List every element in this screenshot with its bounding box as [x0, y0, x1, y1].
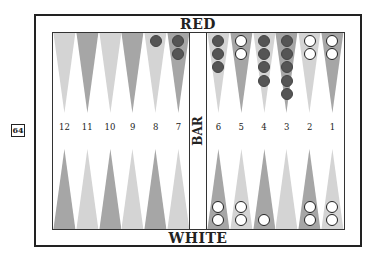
- point-number-label: 7: [167, 122, 190, 132]
- point-7-bottom[interactable]: [167, 149, 190, 229]
- red-checker[interactable]: [281, 88, 293, 100]
- point-10-bottom[interactable]: [99, 149, 122, 229]
- red-checker[interactable]: [281, 35, 293, 47]
- point-number-label: 11: [76, 122, 99, 132]
- point-column: 6: [207, 33, 230, 229]
- bar-label: BAR: [191, 116, 205, 145]
- white-checker[interactable]: [304, 214, 316, 226]
- point-number-label: 5: [230, 122, 253, 132]
- point-number-label: 1: [321, 122, 344, 132]
- point-column: 5: [230, 33, 253, 229]
- point-number-label: 12: [53, 122, 76, 132]
- point-9-top[interactable]: [121, 33, 144, 113]
- point-number-label: 6: [207, 122, 230, 132]
- point-8-bottom[interactable]: [144, 149, 167, 229]
- point-column: 1: [321, 33, 344, 229]
- point-9-bottom[interactable]: [121, 149, 144, 229]
- red-checker[interactable]: [150, 35, 162, 47]
- point-10-top[interactable]: [99, 33, 122, 113]
- bottom-player-label: WHITE: [36, 230, 360, 246]
- point-column: 12: [53, 33, 76, 229]
- doubling-cube[interactable]: 64: [11, 124, 25, 137]
- white-checker[interactable]: [258, 214, 270, 226]
- point-number-label: 4: [253, 122, 276, 132]
- backgammon-board: 121110987 BAR 654321: [52, 32, 345, 230]
- red-checker[interactable]: [258, 35, 270, 47]
- point-column: 7: [167, 33, 190, 229]
- point-column: 2: [298, 33, 321, 229]
- point-number-label: 3: [275, 122, 298, 132]
- point-column: 4: [253, 33, 276, 229]
- top-player-label: RED: [36, 16, 360, 32]
- point-11-bottom[interactable]: [76, 149, 99, 229]
- point-12-top[interactable]: [53, 33, 76, 113]
- red-checker[interactable]: [281, 48, 293, 60]
- bar[interactable]: BAR: [189, 32, 207, 230]
- point-column: 3: [275, 33, 298, 229]
- red-checker[interactable]: [258, 75, 270, 87]
- white-checker[interactable]: [304, 35, 316, 47]
- home-board: 654321: [207, 33, 344, 229]
- point-column: 11: [76, 33, 99, 229]
- point-column: 8: [144, 33, 167, 229]
- red-checker[interactable]: [281, 75, 293, 87]
- point-12-bottom[interactable]: [53, 149, 76, 229]
- white-checker[interactable]: [304, 201, 316, 213]
- point-column: 9: [121, 33, 144, 229]
- white-checker[interactable]: [304, 48, 316, 60]
- point-column: 10: [99, 33, 122, 229]
- point-3-bottom[interactable]: [275, 149, 298, 229]
- point-number-label: 8: [144, 122, 167, 132]
- point-number-label: 2: [298, 122, 321, 132]
- point-11-top[interactable]: [76, 33, 99, 113]
- white-checker[interactable]: [235, 201, 247, 213]
- point-number-label: 10: [99, 122, 122, 132]
- outer-board: 121110987: [53, 33, 189, 229]
- point-number-label: 9: [121, 122, 144, 132]
